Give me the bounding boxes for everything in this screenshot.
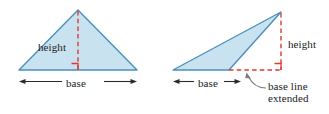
base-line-extended-label: base line extended — [268, 80, 309, 105]
right-triangle-shape — [173, 12, 281, 70]
right-height-label: height — [288, 38, 316, 50]
left-base-label: base — [66, 77, 86, 89]
callout-arrow — [245, 73, 266, 89]
left-height-label: height — [38, 41, 66, 53]
right-triangle-group — [173, 12, 281, 88]
base-line-extended-label-line2: extended — [268, 92, 309, 104]
left-triangle-group — [19, 10, 137, 84]
right-base-label: base — [198, 77, 218, 89]
geometry-figure: height base height base base line extend… — [0, 0, 329, 114]
base-line-extended-label-line1: base line — [268, 80, 309, 92]
right-right-angle-marker — [275, 64, 282, 71]
